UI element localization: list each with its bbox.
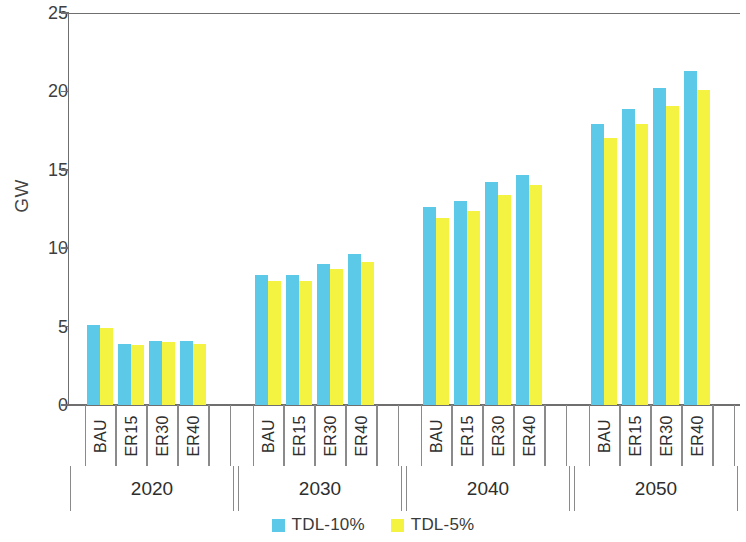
bar-2050-ER30-TDL-5% — [666, 106, 679, 405]
bar-2050-ER15-TDL-5% — [635, 124, 648, 405]
bar-2020-ER40-TDL-10% — [180, 341, 193, 405]
bar-2050-ER40-TDL-5% — [697, 90, 710, 405]
category-tick-label: BAU — [92, 419, 110, 453]
year-group-label: 2020 — [70, 466, 234, 511]
bar-2040-BAU-TDL-5% — [436, 218, 449, 405]
bar-2040-ER40-TDL-5% — [529, 185, 542, 405]
bar-2040-ER30-TDL-10% — [485, 182, 498, 405]
bar-2030-BAU-TDL-10% — [255, 275, 268, 405]
bar-2050-BAU-TDL-5% — [604, 138, 617, 405]
bar-2040-BAU-TDL-10% — [423, 207, 436, 405]
category-axis-pad — [713, 405, 735, 466]
y-axis-label: GW — [11, 176, 33, 216]
category-tick-er40: ER40 — [682, 405, 713, 466]
bar-2030-ER40-TDL-10% — [348, 254, 361, 405]
bar-2020-ER40-TDL-5% — [193, 344, 206, 405]
bar-2020-BAU-TDL-10% — [87, 325, 100, 405]
bar-2030-ER30-TDL-10% — [317, 264, 330, 405]
category-tick-er40: ER40 — [346, 405, 377, 466]
legend-label: TDL-5% — [411, 515, 475, 535]
bar-2050-ER40-TDL-10% — [684, 71, 697, 405]
bar-2050-ER30-TDL-10% — [653, 88, 666, 405]
legend-swatch-icon — [391, 519, 404, 532]
legend-item-0[interactable]: TDL-10% — [272, 515, 365, 535]
bar-2030-ER30-TDL-5% — [330, 269, 343, 405]
category-tick-label: ER30 — [490, 415, 508, 456]
bar-2050-ER15-TDL-10% — [622, 109, 635, 405]
bar-2020-ER30-TDL-5% — [162, 342, 175, 405]
chart-legend: TDL-10%TDL-5% — [0, 515, 746, 535]
category-tick-label: ER15 — [627, 415, 645, 456]
category-tick-er15: ER15 — [452, 405, 483, 466]
bar-2020-BAU-TDL-5% — [100, 328, 113, 405]
category-tick-label: BAU — [428, 419, 446, 453]
bar-2040-ER40-TDL-10% — [516, 175, 529, 405]
category-tick-label: BAU — [260, 419, 278, 453]
year-group-label: 2050 — [574, 466, 738, 511]
category-axis-pad — [377, 405, 399, 466]
bar-2020-ER30-TDL-10% — [149, 341, 162, 405]
category-tick-label: ER40 — [689, 415, 707, 456]
bar-2050-BAU-TDL-10% — [591, 124, 604, 405]
category-tick-bau: BAU — [85, 405, 116, 466]
year-axis: 2020203020402050 — [68, 466, 740, 511]
category-tick-label: ER15 — [459, 415, 477, 456]
category-tick-er30: ER30 — [651, 405, 682, 466]
category-tick-label: ER40 — [521, 415, 539, 456]
category-tick-label: BAU — [596, 419, 614, 453]
year-group-label: 2040 — [406, 466, 570, 511]
category-tick-er30: ER30 — [483, 405, 514, 466]
category-tick-label: ER15 — [291, 415, 309, 456]
category-tick-er40: ER40 — [514, 405, 545, 466]
category-tick-er15: ER15 — [284, 405, 315, 466]
category-tick-label: ER40 — [185, 415, 203, 456]
bar-2020-ER15-TDL-5% — [131, 345, 144, 405]
bar-2040-ER15-TDL-10% — [454, 201, 467, 405]
category-tick-er15: ER15 — [116, 405, 147, 466]
category-tick-bau: BAU — [253, 405, 284, 466]
legend-swatch-icon — [272, 519, 285, 532]
category-tick-label: ER40 — [353, 415, 371, 456]
bar-2020-ER15-TDL-10% — [118, 344, 131, 405]
bar-chart: GW 0510152025 BAUER15ER30ER40BAUER15ER30… — [0, 0, 746, 542]
bar-2030-BAU-TDL-5% — [268, 281, 281, 405]
bar-2040-ER30-TDL-5% — [498, 195, 511, 405]
category-tick-bau: BAU — [421, 405, 452, 466]
category-tick-label: ER30 — [322, 415, 340, 456]
bar-2040-ER15-TDL-5% — [467, 211, 480, 405]
category-axis-pad — [545, 405, 567, 466]
category-tick-er40: ER40 — [178, 405, 209, 466]
category-tick-er30: ER30 — [315, 405, 346, 466]
category-tick-label: ER15 — [123, 415, 141, 456]
category-axis: BAUER15ER30ER40BAUER15ER30ER40BAUER15ER3… — [68, 405, 740, 466]
category-tick-label: ER30 — [154, 415, 172, 456]
category-tick-er30: ER30 — [147, 405, 178, 466]
category-axis-pad — [209, 405, 231, 466]
legend-label: TDL-10% — [292, 515, 365, 535]
year-group-label: 2030 — [238, 466, 402, 511]
category-tick-label: ER30 — [658, 415, 676, 456]
category-tick-bau: BAU — [589, 405, 620, 466]
bars-layer — [68, 13, 740, 405]
legend-item-1[interactable]: TDL-5% — [391, 515, 475, 535]
bar-2030-ER40-TDL-5% — [361, 262, 374, 405]
bar-2030-ER15-TDL-10% — [286, 275, 299, 405]
category-tick-er15: ER15 — [620, 405, 651, 466]
bar-2030-ER15-TDL-5% — [299, 281, 312, 405]
